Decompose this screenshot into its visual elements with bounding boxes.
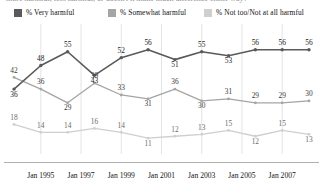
chart-x-axis: Jan 1995Jan 1997Jan 1999Jan 2001Jan 2003… <box>0 171 323 191</box>
x-axis-tick-label: Jan 2005 <box>228 171 255 180</box>
legend-item-very-harmful: % Very harmful <box>14 8 74 17</box>
data-label: 15 <box>225 119 233 128</box>
data-point <box>281 129 284 132</box>
legend-swatch-icon-somewhat-harmful <box>108 9 116 17</box>
data-point <box>227 98 230 101</box>
data-label: 30 <box>305 89 313 98</box>
data-label: 14 <box>118 121 126 130</box>
data-label: 56 <box>305 38 313 47</box>
cut-off-title-strip: more harmful, less harmful, or doesn't i… <box>0 0 323 7</box>
data-label: 18 <box>10 113 18 122</box>
data-point <box>200 133 203 136</box>
data-label: 36 <box>37 77 45 86</box>
legend-swatch-icon-very-harmful <box>14 9 22 17</box>
data-point <box>39 64 42 67</box>
data-point <box>39 88 42 91</box>
data-point <box>280 48 283 51</box>
x-axis-tick-label: Jan 2003 <box>188 171 215 180</box>
data-point <box>120 94 123 97</box>
chart-root: more harmful, less harmful, or doesn't i… <box>0 0 323 191</box>
data-label: 36 <box>10 90 18 99</box>
data-point <box>13 76 16 79</box>
chart-svg: 3648554352565155535656564236293933313630… <box>0 24 323 169</box>
data-label: 15 <box>278 119 286 128</box>
data-label: 36 <box>171 77 179 86</box>
legend-label-somewhat-harmful: % Somewhat harmful <box>120 8 186 17</box>
data-label: 13 <box>198 123 206 132</box>
legend-item-not-harmful: % Not too/Not at all harmful <box>204 8 304 17</box>
data-label: 55 <box>198 40 206 49</box>
data-point <box>308 99 311 102</box>
data-point <box>200 50 203 53</box>
data-point <box>281 101 284 104</box>
data-label: 56 <box>144 38 152 47</box>
data-point <box>227 129 230 132</box>
data-label: 14 <box>37 121 45 130</box>
data-label: 52 <box>118 46 126 55</box>
data-point <box>254 48 257 51</box>
data-label: 14 <box>64 121 72 130</box>
data-label: 29 <box>278 91 286 100</box>
legend-label-very-harmful: % Very harmful <box>26 8 74 17</box>
data-label: 51 <box>171 60 179 69</box>
legend-item-somewhat-harmful: % Somewhat harmful <box>108 8 186 17</box>
data-label: 42 <box>10 66 18 75</box>
data-label: 29 <box>252 91 260 100</box>
data-point <box>120 131 123 134</box>
data-label: 30 <box>198 101 206 110</box>
data-point <box>93 127 96 130</box>
data-label: 31 <box>225 87 233 96</box>
chart-legend: % Very harmful % Somewhat harmful % Not … <box>0 8 323 22</box>
data-point <box>66 50 69 53</box>
cut-off-title-text: more harmful, less harmful, or doesn't i… <box>6 0 247 3</box>
data-point <box>39 131 42 134</box>
data-label: 11 <box>145 139 152 148</box>
data-label: 53 <box>225 56 233 65</box>
data-label: 39 <box>91 71 99 80</box>
data-label: 16 <box>91 117 99 126</box>
data-point <box>174 135 177 138</box>
data-point <box>13 123 16 126</box>
x-axis-tick-label: Jan 2001 <box>148 171 175 180</box>
legend-label-not-harmful: % Not too/Not at all harmful <box>216 8 304 17</box>
x-axis-tick-label: Jan 1999 <box>108 171 135 180</box>
x-axis-tick-label: Jan 2007 <box>269 171 296 180</box>
chart-plot-area: 3648554352565155535656564236293933313630… <box>0 24 323 169</box>
data-label: 55 <box>64 40 72 49</box>
data-point <box>307 48 310 51</box>
data-label: 56 <box>278 38 286 47</box>
data-point <box>174 88 177 91</box>
legend-swatch-icon-not-harmful <box>204 9 212 17</box>
data-label: 12 <box>171 125 179 134</box>
data-label: 13 <box>305 135 313 144</box>
data-label: 31 <box>144 99 152 108</box>
data-point <box>120 56 123 59</box>
data-label: 29 <box>64 103 72 112</box>
x-axis-tick-label: Jan 1995 <box>27 171 54 180</box>
data-label: 12 <box>252 137 260 146</box>
data-label: 56 <box>252 38 260 47</box>
data-point <box>66 131 69 134</box>
data-label: 48 <box>37 54 45 63</box>
data-label: 33 <box>118 83 126 92</box>
x-axis-tick-label: Jan 1997 <box>67 171 94 180</box>
data-point <box>146 48 149 51</box>
data-point <box>254 101 257 104</box>
